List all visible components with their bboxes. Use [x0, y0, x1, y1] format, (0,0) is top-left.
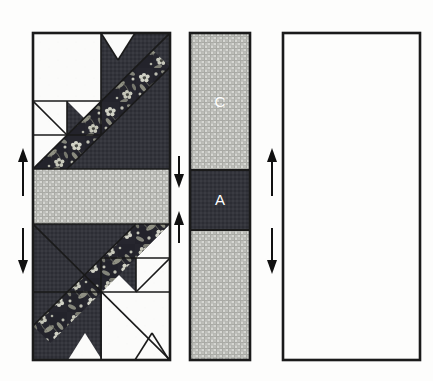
quilt-assembly-diagram: C A — [0, 0, 433, 381]
left-quilt-block — [33, 33, 170, 360]
strip-patch-c-bottom — [190, 230, 250, 360]
left-center-check-band — [33, 169, 170, 224]
patch-label-a: A — [215, 191, 225, 208]
left-top-white-square — [33, 33, 101, 101]
patch-label-c: C — [215, 93, 226, 110]
quilt-diagram-canvas: C A — [0, 0, 433, 381]
